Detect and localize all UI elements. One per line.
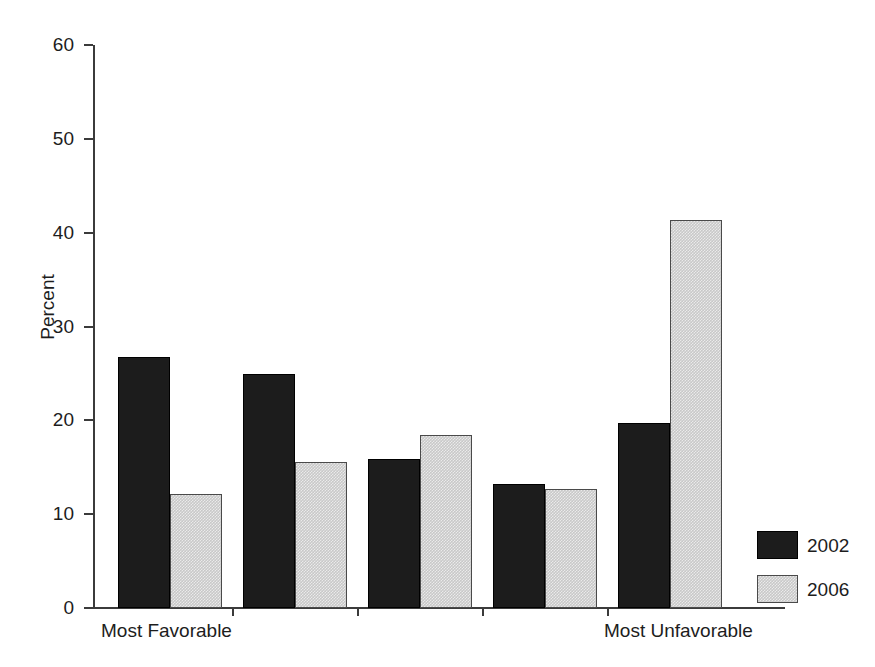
y-tick-mark (84, 513, 93, 515)
y-tick-label: 10 (34, 504, 74, 523)
bar-2006-group4 (670, 220, 722, 608)
bar-2006-group0 (170, 494, 222, 608)
y-tick-mark (84, 138, 93, 140)
y-tick-mark (84, 419, 93, 421)
bar-2002-group2 (368, 459, 420, 608)
y-tick-label: 20 (34, 410, 74, 429)
bar-2002-group1 (243, 374, 295, 608)
legend-label-2002: 2002 (807, 536, 849, 555)
x-tick-mark (232, 607, 234, 616)
bar-2002-group4 (618, 423, 670, 608)
legend-swatch-2002 (757, 531, 798, 559)
x-axis-label-right: Most Unfavorable (604, 620, 753, 642)
bar-2006-group1 (295, 462, 347, 608)
y-tick-mark (84, 232, 93, 234)
y-axis-title: Percent (37, 247, 59, 367)
legend: 2002 2006 (757, 528, 849, 616)
legend-item-2002: 2002 (757, 528, 849, 562)
y-axis-line (93, 45, 95, 609)
y-tick-mark (84, 326, 93, 328)
y-tick-mark (84, 607, 93, 609)
y-tick-mark (84, 44, 93, 46)
x-tick-mark (482, 607, 484, 616)
bar-chart: Percent 0102030405060 Most Favorable Mos… (0, 0, 875, 667)
x-tick-mark (357, 607, 359, 616)
legend-item-2006: 2006 (757, 572, 849, 606)
x-tick-mark (607, 607, 609, 616)
y-tick-label: 40 (34, 223, 74, 242)
bar-2006-group3 (545, 489, 597, 608)
legend-swatch-2006 (757, 575, 798, 603)
x-axis-label-left: Most Favorable (101, 620, 232, 642)
y-tick-label: 0 (34, 598, 74, 617)
legend-label-2006: 2006 (807, 580, 849, 599)
y-tick-label: 30 (34, 317, 74, 336)
bar-2002-group0 (118, 357, 170, 608)
bar-2006-group2 (420, 435, 472, 608)
y-tick-label: 50 (34, 129, 74, 148)
y-tick-label: 60 (34, 35, 74, 54)
bar-2002-group3 (493, 484, 545, 608)
